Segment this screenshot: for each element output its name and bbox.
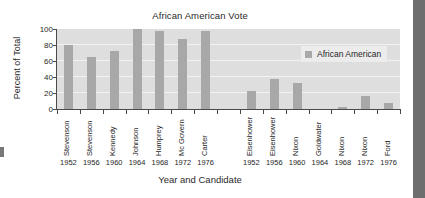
candidate-label: Stevenson: [62, 121, 71, 156]
gridline: [57, 76, 400, 77]
candidate-label: Nixon: [360, 137, 369, 156]
year-label: 1972: [174, 158, 191, 167]
candidate-labels: StevensonStevensonKennedyJohnsonHumpreyM…: [57, 114, 400, 156]
year-label: 1956: [266, 158, 283, 167]
bar: [87, 57, 96, 109]
year-label: 1952: [60, 158, 77, 167]
bar: [110, 51, 119, 109]
bar: [155, 31, 164, 109]
y-tick-label: 20: [27, 89, 53, 98]
bar: [270, 79, 279, 109]
candidate-label: Stevenson: [85, 121, 94, 156]
year-label: 1976: [197, 158, 214, 167]
y-tick-mark: [53, 61, 56, 62]
candidate-label: Humprey: [154, 126, 163, 156]
scan-edge-artifact: [413, 0, 425, 198]
y-tick-label: 40: [27, 73, 53, 82]
candidate-label: Nixon: [337, 137, 346, 156]
y-tick-label: 60: [27, 57, 53, 66]
candidate-label: Eisenhower: [268, 117, 277, 156]
legend-swatch-icon: [305, 51, 312, 58]
candidate-label: Johnson: [131, 128, 140, 156]
plot-wrapper: African American: [57, 29, 400, 109]
bar: [64, 45, 73, 109]
bar: [293, 83, 302, 109]
chart-title: African American Vote: [0, 10, 400, 21]
chart-figure: African American Vote Percent of Total 0…: [0, 0, 425, 198]
y-tick-label: 100: [27, 25, 53, 34]
year-label: 1956: [83, 158, 100, 167]
candidate-label: Goldwater: [314, 122, 323, 156]
bar: [201, 31, 210, 109]
year-label: 1968: [334, 158, 351, 167]
bar: [247, 91, 256, 109]
y-tick-label: 0: [27, 105, 53, 114]
x-tick-mark: [400, 110, 401, 114]
year-labels: 1952195619601964196819721976195219561960…: [57, 158, 400, 170]
scan-left-artifact: [0, 147, 4, 157]
x-axis-label: Year and Candidate: [0, 174, 400, 185]
candidate-label: Kennedy: [108, 126, 117, 156]
year-label: 1952: [243, 158, 260, 167]
candidate-label: Mc Govern: [177, 119, 186, 156]
y-tick-label: 80: [27, 41, 53, 50]
candidate-label: Ford: [383, 141, 392, 156]
legend-label: African American: [317, 49, 381, 59]
plot-area: African American: [57, 29, 400, 109]
y-axis-line: [56, 29, 57, 110]
year-label: 1960: [106, 158, 123, 167]
y-tick-mark: [53, 93, 56, 94]
candidate-label: Eisenhower: [245, 117, 254, 156]
year-label: 1964: [129, 158, 146, 167]
gridline: [57, 44, 400, 45]
candidate-label: Nixon: [291, 137, 300, 156]
y-tick-mark: [53, 109, 56, 110]
y-tick-mark: [53, 29, 56, 30]
y-axis-tick-labels: 020406080100: [26, 29, 53, 109]
bar: [133, 29, 142, 109]
y-tick-mark: [53, 45, 56, 46]
candidate-label: Carter: [200, 135, 209, 156]
bar: [361, 96, 370, 109]
year-label: 1968: [152, 158, 169, 167]
gridline: [57, 92, 400, 93]
y-axis-label: Percent of Total: [12, 23, 22, 113]
year-label: 1964: [312, 158, 329, 167]
chart-legend: African American: [301, 46, 387, 62]
y-tick-mark: [53, 77, 56, 78]
year-label: 1976: [380, 158, 397, 167]
year-label: 1972: [357, 158, 374, 167]
bar: [178, 39, 187, 109]
year-label: 1960: [289, 158, 306, 167]
